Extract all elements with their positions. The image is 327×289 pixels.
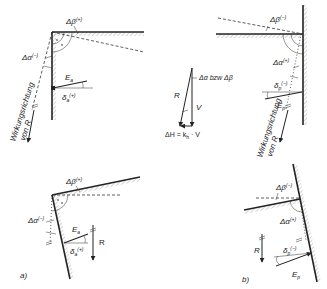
ea-label: Ea	[72, 225, 80, 235]
panel-tag-b: b)	[242, 275, 249, 284]
wall-hatch	[293, 164, 321, 282]
rotated-ground-line	[218, 18, 303, 34]
delta-a-label: δa(+)	[70, 246, 84, 257]
direction-label: Wirkungsrichtungvon R	[255, 97, 291, 162]
equation-label: ΔH = kh · V	[165, 131, 200, 140]
vector-r	[180, 68, 192, 126]
panel-b-bottom: Δβ(−) Δα(+) δp(−) Ep R b)	[242, 164, 321, 284]
delta-beta-label: Δβ(−)	[269, 14, 287, 24]
angle-label: Δα bzw Δβ	[198, 74, 233, 82]
ea-label: Ea	[65, 73, 73, 83]
r-label: R	[174, 91, 180, 100]
panel-tag-a: a)	[20, 271, 27, 280]
delta-alpha-label: Δα(−)	[21, 52, 39, 62]
panel-b-top: Δβ(−) Δα(+) δp(−) Ep Wirkungsrichtungvon…	[216, 5, 307, 161]
panel-a-top: Δβ(+) Δα(−) Ea δa(+) Wirkungsrichtungvon…	[8, 16, 144, 145]
v-label: V	[196, 103, 202, 112]
delta-beta-label: Δβ(+)	[65, 176, 83, 186]
direction-arrow	[280, 110, 288, 142]
rotated-wall-line	[32, 32, 52, 110]
delta-beta-label: Δβ(+)	[65, 16, 83, 26]
force-triangle: R V Δα bzw Δβ ΔH = kh · V	[165, 68, 233, 140]
direction-label: Wirkungsrichtungvon R	[8, 81, 44, 146]
delta-p-label: δp(−)	[274, 80, 288, 91]
ep-label: Ep	[292, 270, 300, 280]
delta-p-label: δp(−)	[283, 245, 297, 256]
r-label: R	[254, 246, 260, 255]
wall-hatch	[52, 195, 74, 279]
delta-alpha-label: Δα(+)	[279, 216, 297, 226]
delta-alpha-label: Δα(+)	[272, 57, 290, 67]
earth-pressure-diagram: Δβ(+) Δα(−) Ea δa(+) Wirkungsrichtungvon…	[0, 0, 327, 289]
force-ea	[64, 234, 88, 243]
force-ep	[265, 92, 302, 99]
delta-alpha-label: Δα(−)	[27, 215, 45, 225]
r-label: R	[99, 238, 105, 247]
delta-a-label: δa(+)	[62, 92, 76, 103]
panel-a-bottom: Δβ(+) Δα(−) Ea δa(+) R a)	[20, 176, 140, 280]
delta-beta-label: Δβ(−)	[275, 182, 293, 192]
